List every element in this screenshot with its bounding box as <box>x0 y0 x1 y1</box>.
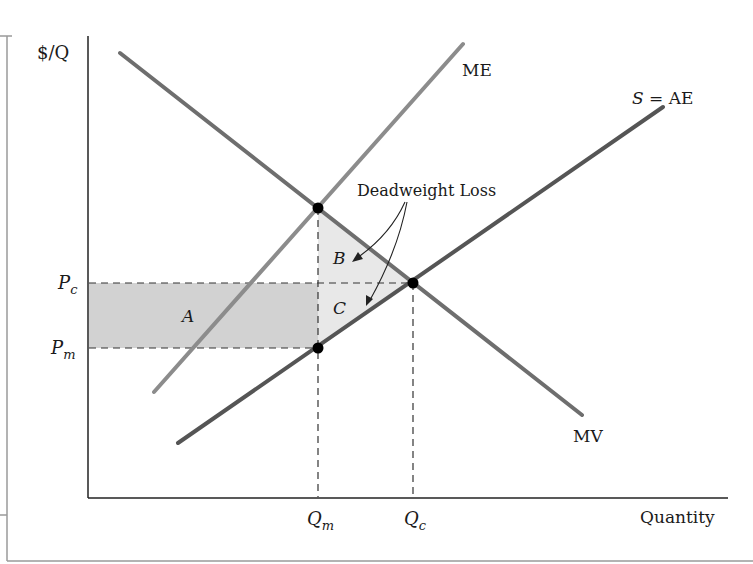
region-b-label: B <box>332 248 346 268</box>
curve-s-label: S = AE <box>632 88 693 108</box>
curve-mv <box>120 53 582 415</box>
monopsony-chart: $/Q Quantity ME S = AE MV Deadweight Los… <box>0 0 753 564</box>
point-competitive <box>408 278 419 289</box>
x-axis-label: Quantity <box>640 507 715 527</box>
qm-tick-label: Qm <box>307 508 334 533</box>
region-c-label: C <box>333 298 346 318</box>
point-me-mv <box>313 203 324 214</box>
curve-mv-label: MV <box>573 426 603 446</box>
qc-tick-label: Qc <box>404 508 427 533</box>
curve-me-label: ME <box>462 60 492 80</box>
deadweight-loss-label: Deadweight Loss <box>357 181 496 200</box>
y-axis-label: $/Q <box>37 42 69 63</box>
pc-tick-label: Pc <box>57 272 78 297</box>
point-monopsony <box>313 343 324 354</box>
region-a-label: A <box>180 306 194 326</box>
pm-tick-label: Pm <box>50 337 75 362</box>
